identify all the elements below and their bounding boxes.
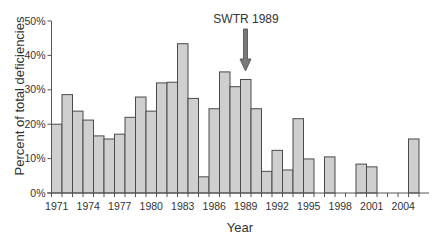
bar-1978 <box>125 117 136 193</box>
bar-1974 <box>83 120 94 193</box>
x-tick-label: 2001 <box>360 200 384 212</box>
bar-1980 <box>146 111 157 193</box>
bar-1988 <box>230 87 241 193</box>
x-tick-label: 1977 <box>108 200 132 212</box>
x-tick-label: 1971 <box>45 200 69 212</box>
bar-1979 <box>136 97 147 193</box>
bar-1997 <box>325 157 336 193</box>
x-tick-label: 1995 <box>297 200 321 212</box>
y-tick-label: 40% <box>24 49 45 61</box>
bar-1987 <box>220 72 231 193</box>
bar-1983 <box>178 44 189 193</box>
bar-1989 <box>241 79 252 193</box>
bar-2000 <box>356 164 367 193</box>
bar-1995 <box>304 159 315 193</box>
bar-series <box>52 44 420 193</box>
x-tick-label: 1998 <box>329 200 353 212</box>
bar-1971 <box>52 124 63 193</box>
y-tick-label: 10% <box>24 152 45 164</box>
chart-canvas: 0%10%20%30%40%50% 1971197419771980198319… <box>0 0 445 244</box>
x-axis-ticks: 1971197419771980198319861989199219951998… <box>45 193 419 212</box>
x-tick-label: 1986 <box>203 200 227 212</box>
bar-chart: 0%10%20%30%40%50% 1971197419771980198319… <box>0 0 445 244</box>
bar-1993 <box>283 170 294 193</box>
bar-1972 <box>62 95 73 193</box>
bar-1991 <box>262 171 273 193</box>
y-axis-title: Percent of total deficiencies <box>12 16 27 175</box>
x-tick-label: 1992 <box>266 200 290 212</box>
bar-1994 <box>293 119 304 193</box>
x-tick-label: 1980 <box>140 200 164 212</box>
x-tick-label: 2004 <box>392 200 416 212</box>
bar-1990 <box>251 109 262 193</box>
bar-1985 <box>199 177 210 193</box>
y-tick-label: 0% <box>30 187 45 199</box>
swtr-annotation: SWTR 1989 <box>213 12 279 71</box>
bar-1981 <box>157 83 168 193</box>
bar-1992 <box>272 150 283 193</box>
bar-1982 <box>167 82 178 193</box>
down-arrow-icon <box>240 29 251 71</box>
y-tick-label: 20% <box>24 118 45 130</box>
bar-1976 <box>104 139 115 193</box>
bar-2005 <box>409 139 420 193</box>
y-axis-ticks: 0%10%20%30%40%50% <box>24 15 51 199</box>
x-tick-label: 1983 <box>171 200 195 212</box>
x-tick-label: 1974 <box>77 200 101 212</box>
bar-1984 <box>188 98 199 193</box>
bar-1973 <box>73 111 84 193</box>
bar-1986 <box>209 109 220 193</box>
bar-1977 <box>115 134 126 193</box>
x-axis-title: Year <box>227 220 254 235</box>
y-tick-label: 30% <box>24 83 45 95</box>
bar-1975 <box>94 136 105 193</box>
bar-2001 <box>367 167 378 193</box>
x-tick-label: 1989 <box>234 200 258 212</box>
annotation-label: SWTR 1989 <box>213 12 279 26</box>
y-tick-label: 50% <box>24 15 45 27</box>
